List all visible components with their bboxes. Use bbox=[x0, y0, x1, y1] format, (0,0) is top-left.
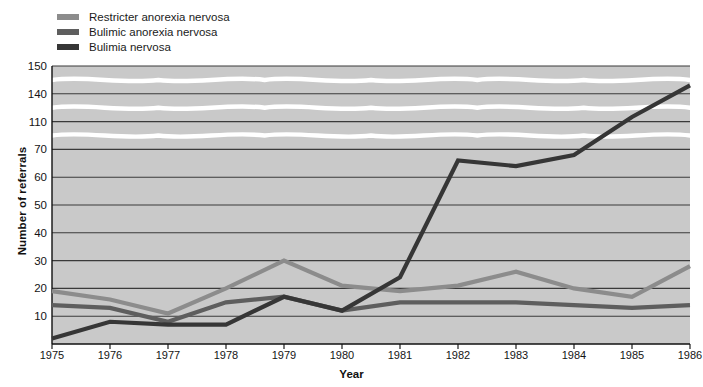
x-axis-tick-1983: 1983 bbox=[486, 349, 546, 361]
x-axis-tick-1986: 1986 bbox=[660, 349, 703, 361]
x-axis-tick-1977: 1977 bbox=[138, 349, 198, 361]
x-axis-tick-1978: 1978 bbox=[196, 349, 256, 361]
y-axis-tick-10: 10 bbox=[3, 310, 47, 322]
x-axis-tick-1980: 1980 bbox=[312, 349, 372, 361]
x-axis-tick-1979: 1979 bbox=[254, 349, 314, 361]
x-axis-tick-1982: 1982 bbox=[428, 349, 488, 361]
y-axis-tick-140: 140 bbox=[3, 88, 47, 100]
x-axis-title: Year bbox=[0, 368, 703, 380]
y-axis-tick-150: 150 bbox=[3, 60, 47, 72]
x-axis-tick-1985: 1985 bbox=[602, 349, 662, 361]
chart-container: Restricter anorexia nervosa Bulimic anor… bbox=[0, 0, 703, 387]
x-axis-tick-1975: 1975 bbox=[22, 349, 82, 361]
x-axis-tick-1981: 1981 bbox=[370, 349, 430, 361]
x-axis-tick-1984: 1984 bbox=[544, 349, 604, 361]
plot-area bbox=[0, 0, 703, 387]
y-axis-tick-20: 20 bbox=[3, 282, 47, 294]
x-axis-tick-1976: 1976 bbox=[80, 349, 140, 361]
y-axis-title: Number of referrals bbox=[16, 121, 28, 281]
